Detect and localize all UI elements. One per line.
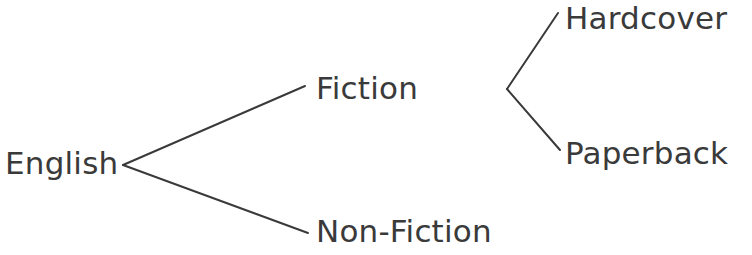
tree-node-non-fiction: Non-Fiction: [316, 216, 492, 247]
tree-diagram-canvas: English Fiction Non-Fiction Hardcover Pa…: [0, 0, 752, 255]
edge-fiction-hardcover: [507, 13, 558, 89]
edge-english-nonfiction: [123, 165, 308, 233]
tree-node-english: English: [5, 148, 118, 179]
tree-node-hardcover: Hardcover: [565, 3, 727, 34]
tree-node-paperback: Paperback: [565, 138, 728, 169]
edge-fiction-paperback: [507, 89, 560, 150]
edge-english-fiction: [123, 86, 305, 165]
tree-node-fiction: Fiction: [316, 73, 418, 104]
